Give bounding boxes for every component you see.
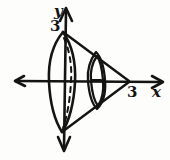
cone-sketch-figure: y 3 x 3 (0, 0, 170, 160)
x-axis-value-label: 3 (127, 85, 137, 100)
y-axis-value-label: 3 (50, 19, 60, 34)
x-axis-label: x (152, 85, 161, 100)
sketch-canvas (0, 0, 170, 160)
